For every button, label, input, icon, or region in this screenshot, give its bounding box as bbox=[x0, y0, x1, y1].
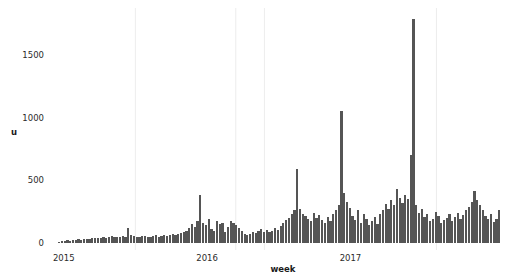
bar bbox=[105, 238, 107, 243]
bar bbox=[313, 213, 315, 243]
bar bbox=[390, 200, 392, 243]
bar bbox=[94, 238, 96, 243]
bar bbox=[454, 217, 456, 243]
bar bbox=[260, 229, 262, 243]
bar bbox=[155, 235, 157, 243]
bar bbox=[357, 210, 359, 243]
bar bbox=[299, 209, 301, 243]
bar bbox=[432, 219, 434, 243]
bar bbox=[382, 210, 384, 243]
bar bbox=[271, 231, 273, 243]
bar bbox=[418, 213, 420, 243]
bar bbox=[124, 237, 126, 243]
bar bbox=[363, 214, 365, 243]
bar bbox=[399, 198, 401, 243]
bar bbox=[149, 237, 151, 243]
bar bbox=[307, 219, 309, 243]
bar bbox=[410, 155, 412, 243]
bar bbox=[91, 238, 93, 243]
bar bbox=[476, 200, 478, 243]
bar bbox=[191, 224, 193, 243]
bar bbox=[83, 239, 85, 243]
bar bbox=[194, 227, 196, 243]
bar bbox=[75, 240, 77, 243]
bar bbox=[100, 238, 102, 243]
bar bbox=[227, 227, 229, 243]
bar bbox=[407, 199, 409, 243]
bar bbox=[365, 219, 367, 243]
bar bbox=[116, 237, 118, 243]
bar bbox=[302, 214, 304, 243]
bar bbox=[459, 219, 461, 243]
bar bbox=[66, 240, 68, 243]
bar bbox=[174, 235, 176, 243]
bar bbox=[340, 111, 342, 243]
bar bbox=[208, 219, 210, 243]
bar bbox=[88, 239, 90, 243]
bar bbox=[196, 221, 198, 243]
bar bbox=[97, 238, 99, 243]
bar bbox=[315, 218, 317, 243]
chart-container: 050010001500201520162017uweek bbox=[0, 0, 509, 279]
bar bbox=[249, 234, 251, 243]
bar bbox=[291, 214, 293, 243]
bar bbox=[338, 205, 340, 243]
bar bbox=[102, 237, 104, 243]
x-axis-title: week bbox=[270, 264, 295, 274]
bar bbox=[354, 220, 356, 243]
bar bbox=[421, 209, 423, 243]
bar bbox=[213, 231, 215, 243]
y-axis-title: u bbox=[11, 127, 17, 137]
bar bbox=[141, 236, 143, 243]
histogram-chart: 050010001500201520162017uweek bbox=[0, 0, 509, 279]
x-axis-ticks: 201520162017 bbox=[53, 253, 361, 263]
bar bbox=[288, 218, 290, 243]
bar bbox=[280, 226, 282, 243]
bar bbox=[396, 189, 398, 243]
bar bbox=[282, 223, 284, 243]
bar bbox=[493, 222, 495, 243]
y-tick-label: 1500 bbox=[22, 50, 44, 60]
bar bbox=[343, 193, 345, 243]
bar bbox=[268, 232, 270, 243]
x-tick-label: 2015 bbox=[53, 253, 75, 263]
bar bbox=[172, 234, 174, 243]
bar bbox=[495, 219, 497, 243]
y-axis-ticks: 050010001500 bbox=[22, 50, 44, 248]
bar bbox=[152, 236, 154, 243]
bar bbox=[108, 237, 110, 243]
bar bbox=[188, 228, 190, 243]
bar bbox=[446, 218, 448, 243]
bar bbox=[465, 210, 467, 243]
bar bbox=[136, 237, 138, 243]
bar bbox=[285, 220, 287, 243]
bar bbox=[426, 214, 428, 243]
bar bbox=[127, 228, 129, 243]
bar bbox=[473, 191, 475, 243]
bar bbox=[448, 214, 450, 243]
bar bbox=[274, 228, 276, 243]
bar bbox=[437, 216, 439, 243]
bar bbox=[429, 221, 431, 243]
bar bbox=[80, 240, 82, 243]
bar bbox=[138, 237, 140, 243]
bar bbox=[86, 239, 88, 243]
bar bbox=[335, 210, 337, 243]
bar bbox=[72, 240, 74, 243]
bar bbox=[216, 221, 218, 243]
bar bbox=[293, 210, 295, 243]
bar bbox=[296, 169, 298, 243]
bar bbox=[368, 225, 370, 243]
bar bbox=[371, 221, 373, 243]
y-tick-label: 1000 bbox=[22, 113, 44, 123]
bar bbox=[255, 233, 257, 243]
bar bbox=[111, 236, 113, 243]
bar bbox=[113, 237, 115, 243]
bar bbox=[435, 212, 437, 243]
bar-series bbox=[58, 19, 500, 243]
bar bbox=[158, 237, 160, 243]
bar bbox=[64, 241, 66, 243]
bar bbox=[180, 233, 182, 243]
bar bbox=[69, 241, 71, 243]
bar bbox=[241, 231, 243, 243]
